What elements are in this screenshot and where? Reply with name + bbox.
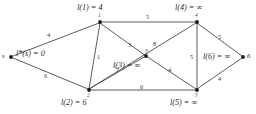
weight-s-2: 6 xyxy=(44,73,47,79)
node-index-4: 4 xyxy=(195,13,198,18)
weight-5-6: 4 xyxy=(218,76,221,82)
label-l-6: l(6) = ∞ xyxy=(203,53,230,61)
edge-s-2 xyxy=(13,58,88,89)
label-l-2: l(2) = 6 xyxy=(61,99,87,107)
weight-s-1: 4 xyxy=(47,32,50,38)
edge-2-4 xyxy=(89,23,196,89)
edge-5-6 xyxy=(197,58,242,89)
label-l-1: l(1) = 4 xyxy=(77,4,103,12)
label-l-s: l*(s) = 0 xyxy=(16,50,45,58)
weight-3-5: 4 xyxy=(168,67,171,73)
weight-1-4: 5 xyxy=(146,14,149,20)
weight-1-3: 3 xyxy=(128,42,131,48)
weight-2-4: 8 xyxy=(153,41,156,47)
node-name-6: 6 xyxy=(247,53,250,60)
node-s[interactable] xyxy=(9,55,13,59)
node-1[interactable] xyxy=(98,20,102,24)
label-l-5: l(5) = ∞ xyxy=(170,99,197,107)
node-index-5: 5 xyxy=(195,93,198,98)
node-index-2: 2 xyxy=(87,93,90,98)
label-l-4: l(4) = ∞ xyxy=(175,4,202,12)
node-3[interactable] xyxy=(144,54,148,58)
node-index-3: 3 xyxy=(145,49,148,54)
node-4[interactable] xyxy=(195,20,199,24)
weight-2-5: 6 xyxy=(140,84,143,90)
weight-4-6: 5 xyxy=(218,34,221,40)
node-index-1: 1 xyxy=(98,13,101,18)
weight-1-2: 1 xyxy=(97,54,100,60)
edge-1-3 xyxy=(100,23,146,56)
node-6[interactable] xyxy=(241,55,245,59)
diagram-canvas: s 6 l*(s) = 0 l(1) = 4 l(2) = 6 l(3) = ∞… xyxy=(0,0,256,114)
weight-2-3: 7 xyxy=(116,67,119,73)
node-name-s: s xyxy=(2,53,5,60)
weight-4-5: 5 xyxy=(190,54,193,60)
